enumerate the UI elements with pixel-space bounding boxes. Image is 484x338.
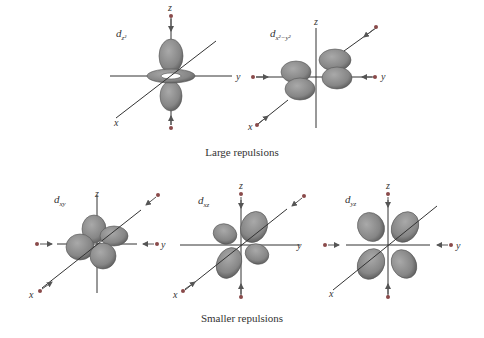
z-label: z bbox=[94, 188, 99, 199]
ligand-point bbox=[35, 242, 39, 246]
orbital-label: dxz bbox=[198, 194, 210, 209]
y-label: y bbox=[235, 71, 241, 82]
x-label: x bbox=[247, 121, 253, 132]
ligand-point bbox=[169, 126, 173, 130]
ligand-point bbox=[155, 242, 159, 246]
ligand-point bbox=[169, 14, 173, 18]
orbital-dxy: z y x dxy bbox=[28, 188, 166, 300]
caption-large-repulsions: Large repulsions bbox=[205, 146, 278, 158]
caption-smaller-repulsions: Smaller repulsions bbox=[201, 312, 283, 324]
x-label: x bbox=[28, 289, 34, 300]
ligand-point bbox=[181, 289, 185, 293]
y-label: y bbox=[160, 239, 166, 250]
lobe bbox=[160, 81, 182, 111]
lobe bbox=[352, 208, 390, 247]
y-label: y bbox=[296, 240, 302, 251]
ligand-point bbox=[386, 295, 390, 299]
orbital-diagram: z y x dz² z y x dx²−y² bbox=[0, 0, 484, 338]
orbital-dx2-y2: z y x dx²−y² bbox=[247, 16, 386, 132]
ligand-point bbox=[386, 192, 390, 196]
lobe bbox=[159, 39, 183, 73]
lobe bbox=[386, 207, 425, 248]
orbital-label: dyz bbox=[345, 193, 357, 208]
lobe bbox=[322, 67, 352, 89]
ligand-point bbox=[302, 194, 306, 198]
orbital-dz2: z y x dz² bbox=[110, 2, 241, 130]
lobe bbox=[210, 220, 239, 247]
lobe bbox=[285, 78, 315, 100]
z-label: z bbox=[385, 180, 390, 191]
z-label: z bbox=[167, 2, 172, 13]
ligand-point bbox=[449, 243, 453, 247]
ligand-point bbox=[251, 75, 255, 79]
orbital-label: dz² bbox=[116, 27, 127, 42]
ligand-point bbox=[156, 193, 160, 197]
ligand-point bbox=[373, 75, 377, 79]
x-label: x bbox=[172, 289, 178, 300]
orbital-dyz: z y x dyz bbox=[323, 180, 461, 299]
ligand-point bbox=[374, 25, 378, 29]
x-axis bbox=[333, 206, 437, 290]
ligand-point bbox=[239, 295, 243, 299]
z-label: z bbox=[238, 180, 243, 191]
z-label: z bbox=[313, 16, 318, 27]
x-label: x bbox=[113, 117, 119, 128]
y-label: y bbox=[380, 71, 386, 82]
x-label: x bbox=[328, 288, 334, 299]
ligand-point bbox=[38, 289, 42, 293]
orbital-label: dxy bbox=[54, 193, 67, 208]
ligand-point bbox=[255, 123, 259, 127]
lobe bbox=[386, 245, 422, 283]
x-axis bbox=[185, 209, 287, 290]
lobe bbox=[352, 244, 391, 285]
ligand-point bbox=[239, 192, 243, 196]
ligand-point bbox=[323, 243, 327, 247]
orbital-label: dx²−y² bbox=[270, 27, 292, 42]
orbital-dxz: z y x dxz bbox=[172, 180, 306, 300]
y-label: y bbox=[455, 240, 461, 251]
